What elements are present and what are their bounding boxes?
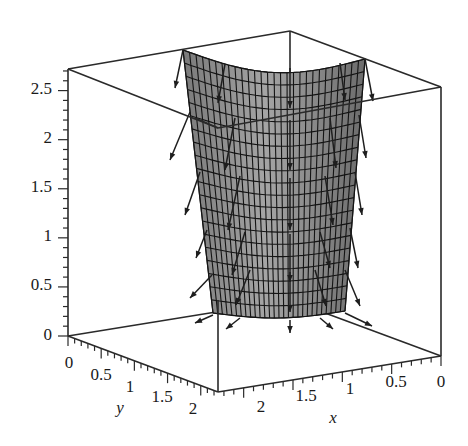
arrow-head-icon: [355, 298, 360, 306]
y-tick-label: 0.5: [90, 365, 111, 384]
z-tick-label: 1: [44, 226, 53, 245]
y-tick-label: 1.5: [151, 387, 172, 406]
z-tick-label: 1.5: [31, 177, 52, 196]
arrow-head-icon: [185, 207, 190, 215]
z-axis-labels: 2.5 2 1.5 1 0.5 0: [31, 79, 52, 344]
arrow-head-icon: [358, 208, 364, 215]
x-tick-label: 1.5: [295, 386, 316, 405]
z-tick-label: 2: [44, 128, 53, 147]
arrow-head-icon: [170, 152, 175, 160]
x-axis-labels: 2 1.5 1 0.5 0 x: [257, 372, 446, 427]
x-tick-label: 1: [346, 379, 355, 398]
y-axis-title: y: [114, 398, 124, 417]
x-tick-label: 0: [437, 372, 446, 391]
box-edge: [68, 31, 290, 69]
vector-arrow: [170, 112, 190, 160]
arrow-head-icon: [195, 318, 203, 323]
z-tick-label: 0: [44, 325, 53, 344]
box-edge: [218, 356, 441, 392]
arrow-head-icon: [364, 320, 372, 326]
x-axis-title: x: [328, 408, 337, 427]
arrow-head-icon: [287, 326, 293, 333]
arrow-head-icon: [354, 261, 359, 268]
surface-plot-3d: 2.5 2 1.5 1 0.5 0 0 0.5 1 1.5 2 y 2 1.5 …: [0, 0, 468, 446]
z-tick-label: 2.5: [31, 79, 52, 98]
x-tick-label: 0.5: [385, 372, 406, 391]
y-tick-label: 2: [189, 399, 198, 418]
z-tick-label: 0.5: [31, 275, 52, 294]
arrow-head-icon: [362, 151, 368, 158]
y-axis-labels: 0 0.5 1 1.5 2 y: [65, 353, 198, 418]
arrow-head-icon: [196, 250, 201, 258]
x-tick-label: 2: [257, 397, 266, 416]
y-tick-label: 0: [65, 353, 74, 372]
y-tick-label: 1: [126, 377, 135, 396]
